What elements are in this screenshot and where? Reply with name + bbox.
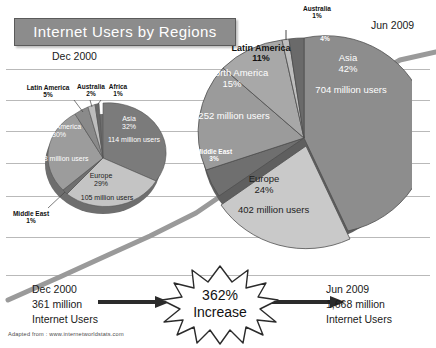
summary-dec2000: Dec 2000 361 million Internet Users xyxy=(32,282,98,327)
chart-canvas: Internet Users by Regions Dec 2000 Jun 2… xyxy=(0,0,436,348)
summary-left-caption: Internet Users xyxy=(32,313,98,325)
summary-left-date: Dec 2000 xyxy=(32,283,77,295)
increase-percent: 362% xyxy=(168,287,272,304)
summary-right-caption: Internet Users xyxy=(326,313,392,325)
increase-burst-label: 362% Increase xyxy=(168,287,272,321)
summary-right-date: Jun 2009 xyxy=(326,283,369,295)
summary-jun2009: Jun 2009 1,668 million Internet Users xyxy=(326,282,392,327)
summary-right-users: 1,668 million xyxy=(326,298,385,310)
summary-left-users: 361 million xyxy=(32,298,82,310)
arrow-left-to-burst xyxy=(98,296,170,308)
increase-word: Increase xyxy=(168,304,272,321)
source-attribution: Adapted from : www.internetworldstats.co… xyxy=(8,331,124,337)
